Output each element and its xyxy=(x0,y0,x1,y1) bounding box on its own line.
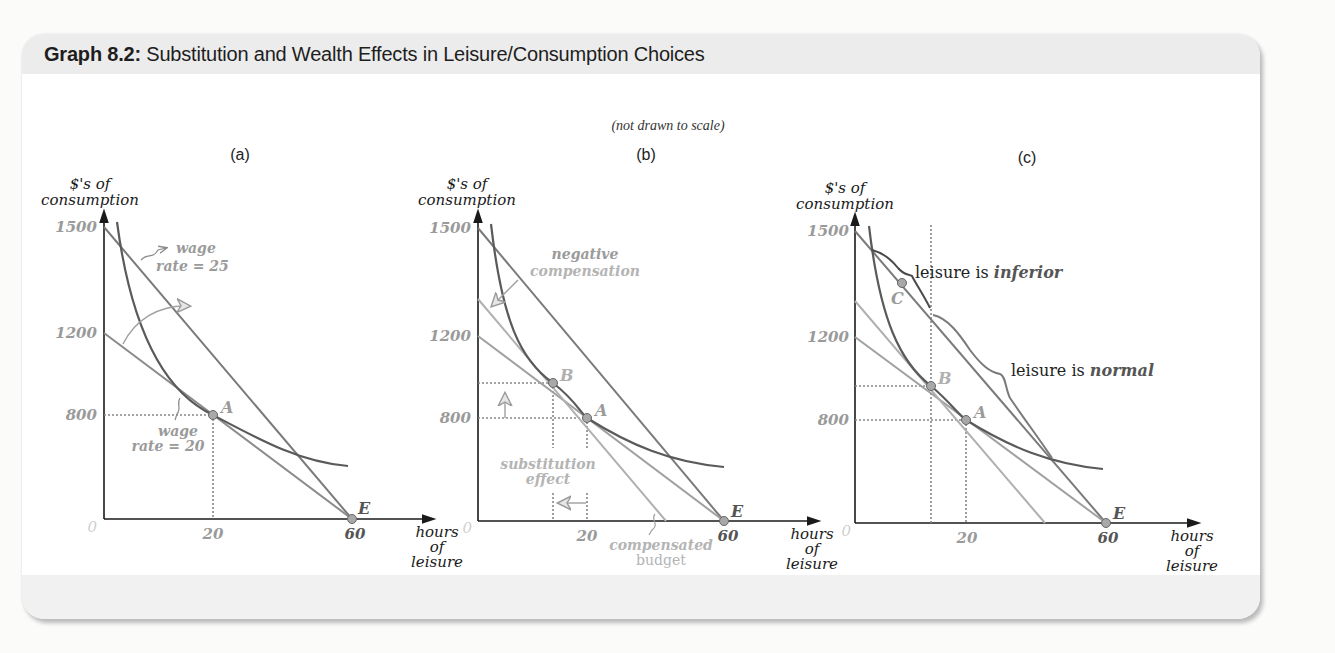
panel-a-ytick-1200: 1200 xyxy=(55,324,97,342)
not-to-scale-note: (not drawn to scale) xyxy=(611,118,724,134)
panel-c-xtick-60: 60 xyxy=(1098,529,1119,547)
panel-b-x-label-3: leisure xyxy=(786,555,838,573)
panel-a-rotation-arrow xyxy=(123,306,188,344)
panel-c-label: (c) xyxy=(1018,149,1037,166)
panel-b-comp-line1: compensated xyxy=(609,537,713,553)
panel-b-compensated-budget xyxy=(478,299,666,521)
panel-a-xtick-20: 20 xyxy=(202,525,224,543)
panel-c: (c) $'s of consumption 1500 1200 800 0 2… xyxy=(796,149,1218,575)
panel-a-xtick-60: 60 xyxy=(345,525,366,543)
panel-c-inferior-prefix: leisure is xyxy=(915,263,994,282)
panel-b-label-a: A xyxy=(593,401,607,420)
panel-b-neg-comp-line2: compensation xyxy=(530,263,640,279)
panel-a-wage25-line2: rate = 25 xyxy=(156,258,229,274)
panel-a-budget-20 xyxy=(104,333,352,519)
panel-a-wage25-line1: wage xyxy=(176,240,216,256)
panel-b-neg-comp-arrow xyxy=(493,280,518,305)
panel-c-compensated-budget xyxy=(855,301,1045,523)
panel-b-ytick-1200: 1200 xyxy=(429,327,471,345)
panel-b-point-e xyxy=(720,517,729,526)
panel-c-xtick-0: 0 xyxy=(841,522,851,540)
panel-b-xtick-0: 0 xyxy=(462,519,472,537)
panel-a-label: (a) xyxy=(230,146,250,163)
panel-c-point-a xyxy=(962,416,971,425)
panel-c-ytick-1500: 1500 xyxy=(807,222,849,240)
panel-a-wage20-line1: wage xyxy=(158,423,198,439)
panel-c-normal-label: leisure is normal xyxy=(1011,361,1154,380)
panel-c-label-b: B xyxy=(937,369,952,388)
panel-c-inferior-label: leisure is inferior xyxy=(915,263,1064,282)
panel-b: (b) $'s of consumption 1500 1200 800 0 2… xyxy=(418,146,838,573)
panel-c-label-a: A xyxy=(972,403,986,422)
panel-a-label-a: A xyxy=(219,398,233,417)
panel-c-point-b xyxy=(927,382,936,391)
panel-c-label-e: E xyxy=(1112,504,1126,523)
panel-c-inferior-emph: inferior xyxy=(994,263,1064,282)
panel-b-neg-comp-line1: negative xyxy=(552,246,619,262)
graph-svg: (not drawn to scale) (a) $'s of consumpt… xyxy=(0,0,1335,653)
panel-a-ytick-800: 800 xyxy=(66,406,98,424)
panel-a-label-e: E xyxy=(357,499,371,518)
panel-a-wage20-pointer xyxy=(175,398,180,420)
panel-a-x-label-3: leisure xyxy=(411,553,463,571)
panel-a-point-a xyxy=(209,411,218,420)
panel-c-ytick-1200: 1200 xyxy=(807,328,849,346)
panel-a-y-label-2: consumption xyxy=(41,191,139,209)
panel-b-xtick-20: 20 xyxy=(576,527,598,545)
panel-c-point-e xyxy=(1102,519,1111,528)
panel-b-subst-line1: substitution xyxy=(500,456,595,472)
panel-c-normal-emph: normal xyxy=(1090,361,1154,380)
panel-c-point-c xyxy=(898,279,907,288)
panel-b-comp-line2: budget xyxy=(636,552,686,568)
panel-a-xtick-0: 0 xyxy=(87,518,97,536)
panel-c-label-c: C xyxy=(891,289,904,308)
panel-b-label: (b) xyxy=(636,146,656,163)
panel-b-xtick-60: 60 xyxy=(718,527,739,545)
panel-b-ytick-800: 800 xyxy=(440,409,472,427)
panel-b-y-label-2: consumption xyxy=(418,191,516,209)
panel-b-budget-20 xyxy=(478,336,724,521)
panel-b-label-b: B xyxy=(559,366,574,385)
panel-a-point-e xyxy=(348,515,357,524)
panel-c-y-label-2: consumption xyxy=(796,195,894,213)
panel-b-point-b xyxy=(549,379,558,388)
panel-a-ytick-1500: 1500 xyxy=(55,218,97,236)
panel-b-ytick-1500: 1500 xyxy=(429,219,471,237)
panel-a-wage20-line2: rate = 20 xyxy=(132,438,205,454)
panel-b-comp-pointer xyxy=(649,514,655,535)
panel-c-ytick-800: 800 xyxy=(818,411,850,429)
panel-b-label-e: E xyxy=(730,502,744,521)
panel-b-subst-line2: effect xyxy=(526,471,571,487)
panel-c-x-label-3: leisure xyxy=(1166,557,1218,575)
panel-c-xtick-20: 20 xyxy=(956,529,978,547)
panel-c-normal-prefix: leisure is xyxy=(1011,361,1090,380)
panel-b-point-a xyxy=(583,414,592,423)
panel-a: (a) $'s of consumption 1500 1200 800 0 2… xyxy=(41,146,463,571)
